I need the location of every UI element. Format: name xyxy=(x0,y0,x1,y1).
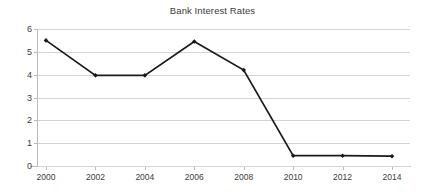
series-line xyxy=(46,40,392,156)
data-point-marker xyxy=(340,153,345,158)
line-chart: Bank Interest Rates 0123456 200020022004… xyxy=(0,0,425,194)
series-plot xyxy=(0,0,425,194)
data-point-marker xyxy=(390,154,395,159)
